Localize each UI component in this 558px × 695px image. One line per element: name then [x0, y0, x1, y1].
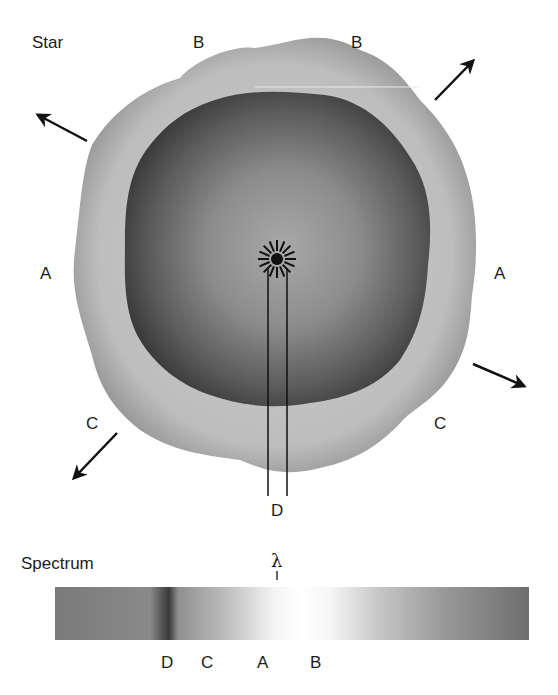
arrow-down-right-icon — [473, 364, 524, 386]
label-c-left: C — [86, 415, 98, 432]
arrow-up-right-icon — [435, 61, 473, 100]
spectrum-label-a: A — [257, 654, 268, 671]
spectrum-label-c: C — [201, 654, 213, 671]
arrow-up-left-icon — [38, 115, 87, 141]
spectrum-label-d: D — [161, 654, 173, 671]
star-diagram — [0, 0, 558, 695]
arrow-down-left-icon — [74, 433, 117, 478]
star-title: Star — [32, 34, 63, 51]
spectrum-title: Spectrum — [21, 555, 94, 572]
spectrum-label-b: B — [310, 654, 321, 671]
sun-burst-icon — [258, 240, 296, 278]
label-a-right: A — [494, 265, 505, 282]
label-b-top-right: B — [351, 34, 362, 51]
wavelength-symbol: λ — [271, 550, 282, 571]
label-c-right: C — [434, 415, 446, 432]
label-d-center: D — [271, 502, 283, 519]
label-a-left: A — [40, 265, 51, 282]
label-b-top-left: B — [193, 34, 204, 51]
spectrum-bar — [55, 587, 529, 640]
